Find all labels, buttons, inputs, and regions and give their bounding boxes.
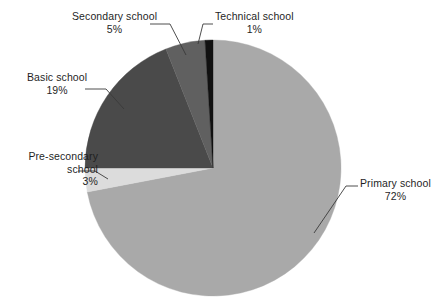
slice-label-secondary-school: Secondary school 5%	[72, 10, 157, 35]
slice-label-basic-school: Basic school 19%	[27, 71, 87, 96]
slice-label-technical-school-name: Technical school	[215, 10, 294, 22]
slice-label-primary-school-name: Primary school	[360, 177, 431, 189]
slice-label-primary-school: Primary school 72%	[360, 177, 431, 202]
slice-label-technical-school-percent: 1%	[215, 23, 294, 36]
slice-label-pre-secondary-school-name-line2: school	[6, 163, 98, 176]
slice-label-pre-secondary-school-percent: 3%	[6, 175, 98, 188]
slice-label-secondary-school-percent: 5%	[72, 23, 157, 36]
pie-slices-group	[85, 40, 341, 296]
slice-label-primary-school-percent: 72%	[360, 190, 431, 203]
slice-label-basic-school-percent: 19%	[27, 84, 87, 97]
slice-label-technical-school: Technical school 1%	[215, 10, 294, 35]
pie-chart: Secondary school 5% Technical school 1% …	[0, 0, 448, 300]
slice-label-pre-secondary-school: Pre-secondary school 3%	[6, 150, 98, 188]
slice-label-pre-secondary-school-name-line1: Pre-secondary	[28, 150, 98, 162]
slice-label-secondary-school-name: Secondary school	[72, 10, 157, 22]
slice-label-basic-school-name: Basic school	[27, 71, 87, 83]
